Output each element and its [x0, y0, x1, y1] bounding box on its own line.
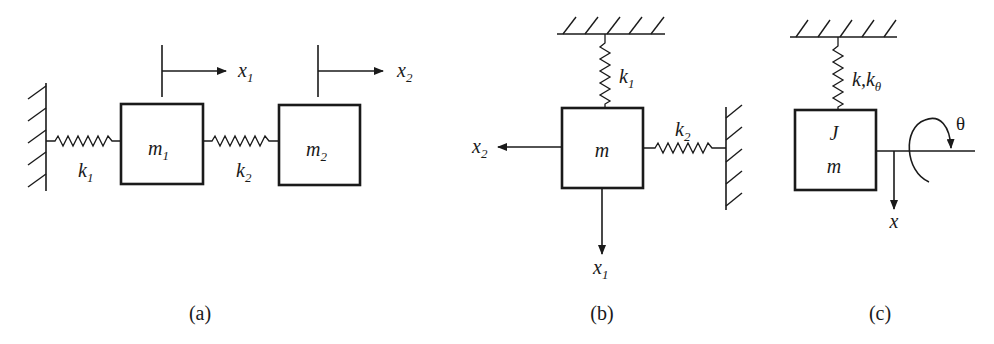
displacement-arrow-x1 — [162, 45, 226, 97]
displacement-label-x-c: x — [889, 210, 899, 232]
mass-label-m-c: m — [827, 155, 841, 177]
spring-k-ktheta — [833, 37, 843, 110]
spring-label-k2: k2 — [236, 159, 252, 185]
spring-mass-systems-figure: k1 m1 x1 k2 m2 x2 (a) — [0, 0, 994, 344]
caption-a: (a) — [189, 302, 211, 325]
fixed-wall-right-b — [726, 105, 742, 210]
displacement-arrow-x2 — [318, 45, 383, 97]
spring-k2 — [203, 136, 279, 146]
fixed-ceiling-b — [557, 17, 665, 34]
displacement-label-x2: x2 — [396, 59, 413, 85]
panel-a: k1 m1 x1 k2 m2 x2 (a) — [28, 45, 413, 325]
spring-label-k1: k1 — [78, 159, 93, 185]
displacement-label-x1: x1 — [237, 59, 253, 85]
caption-b: (b) — [590, 302, 613, 325]
rotation-label-theta: θ — [956, 113, 965, 134]
mass-label-m-b: m — [595, 139, 609, 161]
panel-c: k,kθ J m x θ (c) — [790, 20, 975, 325]
caption-c: (c) — [869, 302, 891, 325]
fixed-wall-left — [28, 83, 46, 191]
spring-k2-horizontal — [643, 143, 726, 153]
spring-k1 — [46, 136, 121, 146]
spring-label-k1-b: k1 — [619, 65, 634, 91]
spring-label-k2-b: k2 — [675, 118, 691, 144]
spring-k1-vertical — [600, 34, 610, 108]
spring-label-k-ktheta: k,kθ — [852, 68, 882, 94]
displacement-label-x1-b: x1 — [592, 256, 608, 282]
panel-b: k1 m k2 x2 x1 (b) — [471, 17, 742, 325]
displacement-label-x2-b: x2 — [471, 135, 488, 161]
fixed-ceiling-c — [790, 20, 897, 37]
inertia-label-j: J — [830, 122, 840, 144]
